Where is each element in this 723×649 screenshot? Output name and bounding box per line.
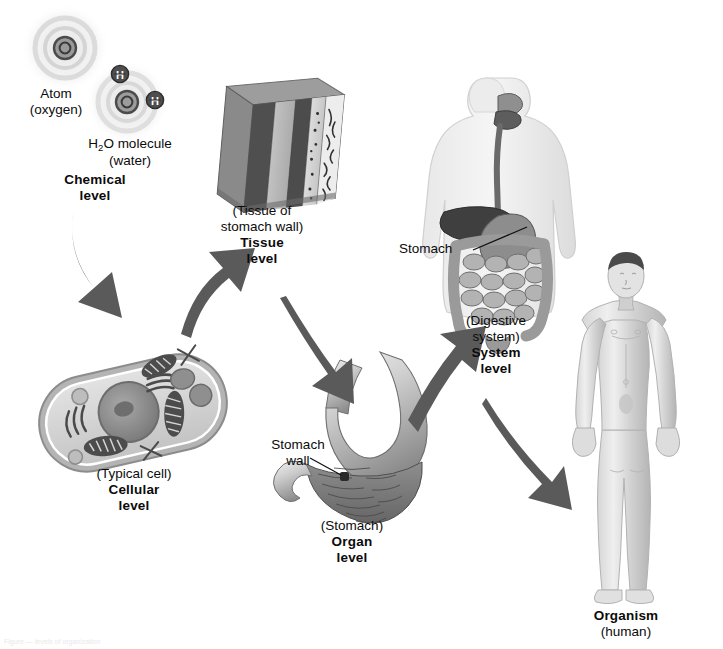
arrow-tissue-to-organ	[280, 296, 354, 404]
svg-text:H: H	[116, 69, 124, 81]
label-atom: Atom (oxygen)	[16, 86, 96, 118]
human-figure-illustration	[572, 252, 679, 604]
label-water-molecule: H2O molecule (water)	[70, 136, 190, 169]
label-cellular-level: (Typical cell) Cellular level	[66, 466, 202, 514]
label-stomach-callout: Stomach	[399, 241, 452, 256]
label-tissue-level: (Tissue of stomach wall) Tissue level	[198, 203, 326, 267]
arrow-system-to-organism	[482, 398, 572, 510]
figure-canvas: H H	[0, 0, 723, 649]
arrow-chemical-to-cellular	[72, 210, 122, 318]
molecule-formula: H2O molecule	[70, 136, 190, 153]
figure-caption: Figure — levels of organization	[4, 638, 294, 647]
label-chemical-level: Chemical level	[40, 172, 150, 204]
label-system-level: (Digestive system) System level	[444, 313, 548, 377]
label-organism-level: Organism (human)	[572, 608, 680, 640]
tissue-block-illustration	[216, 71, 346, 221]
svg-text:H: H	[151, 95, 159, 107]
water-molecule-illustration: H H	[85, 60, 169, 144]
cell-illustration	[28, 340, 236, 481]
atom-oxygen-illustration	[21, 4, 109, 92]
label-stomach-wall-callout: Stomach wall	[262, 437, 334, 469]
label-organ-level: (Stomach) Organ level	[292, 518, 412, 566]
